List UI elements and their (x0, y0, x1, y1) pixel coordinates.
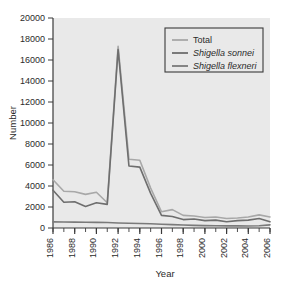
x-tick-label: 2000 (197, 238, 207, 258)
y-tick-label: 16000 (20, 55, 45, 65)
chart-legend: TotalShigella sonneiShigella flexneri (165, 28, 263, 72)
legend-label-0: Total (193, 35, 212, 45)
y-tick-label: 8000 (25, 139, 45, 149)
x-tick-label: 1992 (110, 238, 120, 258)
x-tick-label: 1998 (175, 238, 185, 258)
line-chart: 0200040006000800010000120001400016000180… (0, 0, 292, 284)
x-tick-label: 1988 (67, 238, 77, 258)
y-tick-label: 0 (40, 223, 45, 233)
legend-label-2: Shigella flexneri (193, 61, 258, 71)
y-tick-label: 20000 (20, 13, 45, 23)
x-tick-label: 2006 (262, 238, 272, 258)
x-tick-label: 2004 (240, 238, 250, 258)
y-tick-label: 6000 (25, 160, 45, 170)
y-tick-label: 10000 (20, 118, 45, 128)
x-tick-label: 2002 (219, 238, 229, 258)
chart-figure: 0200040006000800010000120001400016000180… (0, 0, 292, 284)
y-tick-label: 2000 (25, 202, 45, 212)
x-axis-minor-ticks (53, 228, 270, 232)
x-tick-label: 1986 (45, 238, 55, 258)
y-tick-label: 4000 (25, 181, 45, 191)
y-tick-label: 18000 (20, 34, 45, 44)
y-axis-title: Number (7, 106, 18, 140)
legend-label-1: Shigella sonnei (193, 48, 255, 58)
y-tick-label: 12000 (20, 97, 45, 107)
x-tick-label: 1990 (88, 238, 98, 258)
x-tick-label: 1996 (154, 238, 164, 258)
y-tick-label: 14000 (20, 76, 45, 86)
x-tick-label: 1994 (132, 238, 142, 258)
x-axis-title: Year (155, 268, 174, 279)
